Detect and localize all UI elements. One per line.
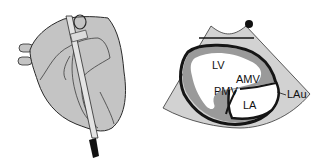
echo-sector-view: LV AMV PMV LA LAu [163,20,310,128]
label-amv: AMV [236,73,261,85]
probe-tip [89,138,99,158]
label-pmv: PMV [214,85,239,97]
transducer-marker [245,20,253,28]
label-lv: LV [212,59,225,71]
label-lau: LAu [287,88,307,100]
diagram-canvas: LV AMV PMV LA LAu [0,0,324,167]
label-la: LA [243,99,257,111]
heart-illustration [18,15,126,158]
